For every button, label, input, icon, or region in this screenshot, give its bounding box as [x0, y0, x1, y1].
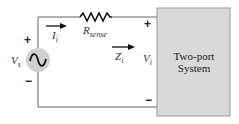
- source-minus-sign: −: [25, 75, 32, 87]
- resistor-label: Rsense: [83, 25, 107, 39]
- source-plus-sign: +: [24, 34, 31, 46]
- system-label-line2: System: [178, 62, 210, 74]
- source-voltage-label: Vs: [11, 55, 21, 69]
- output-minus-sign: −: [145, 94, 152, 106]
- system-label: Two-port System: [157, 8, 231, 116]
- ac-source-icon: [26, 48, 50, 72]
- resistor-icon: [80, 13, 112, 21]
- output-plus-sign: +: [144, 18, 151, 30]
- current-arrow-icon: [46, 23, 67, 29]
- system-label-line1: Two-port: [174, 50, 215, 62]
- current-label: Ii: [52, 30, 58, 44]
- input-voltage-label: Vi: [143, 53, 152, 67]
- impedance-label: Zi: [115, 51, 123, 65]
